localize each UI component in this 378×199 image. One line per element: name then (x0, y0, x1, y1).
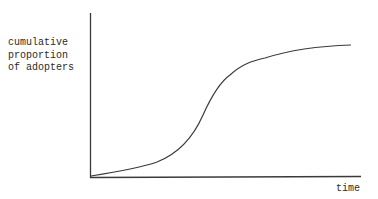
y-axis-label-line-1: cumulative (8, 37, 74, 50)
y-axis-label: cumulative proportion of adopters (8, 37, 74, 75)
x-axis (90, 177, 361, 178)
x-axis-label: time (336, 183, 360, 194)
s-curve-diagram (0, 0, 378, 199)
adoption-curve (91, 45, 351, 176)
y-axis-label-line-3: of adopters (8, 62, 74, 75)
y-axis-label-line-2: proportion (8, 50, 74, 63)
